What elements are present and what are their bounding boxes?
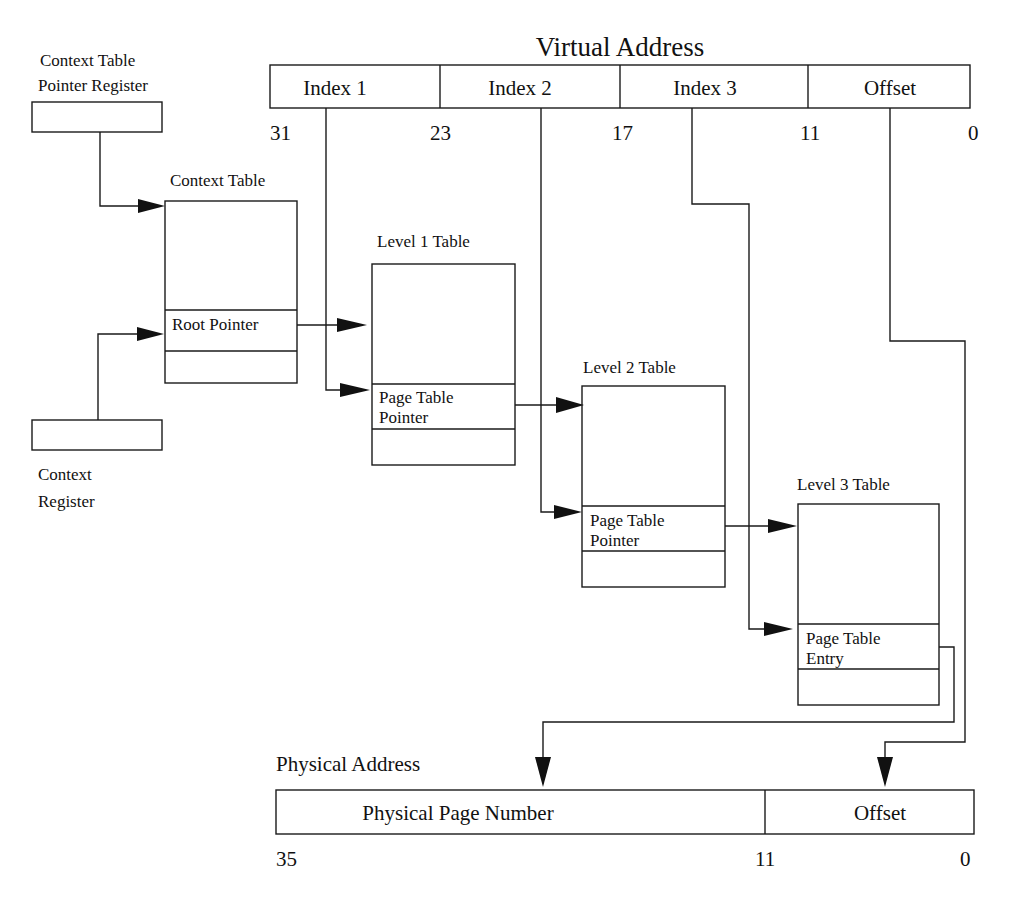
- root-pointer-entry: Root Pointer: [172, 315, 259, 334]
- pa-field-offset: Offset: [854, 801, 906, 825]
- va-bit-0: 0: [968, 121, 979, 145]
- connector-index1-to-level1-entry: [326, 108, 370, 397]
- page-table-diagram: Virtual Address Index 1 Index 2 Index 3 …: [0, 0, 1009, 902]
- connector-level2-to-level3: [725, 519, 797, 533]
- level1-entry-line2: Pointer: [379, 408, 428, 427]
- va-bit-23: 23: [430, 121, 451, 145]
- pa-bit-11: 11: [755, 847, 775, 871]
- connector-root-pointer-to-level1: [297, 318, 367, 332]
- pa-field-physical-page-number: Physical Page Number: [362, 801, 553, 825]
- level2-entry-line2: Pointer: [590, 531, 639, 550]
- level3-table-title: Level 3 Table: [797, 475, 890, 494]
- pa-bit-35: 35: [276, 847, 297, 871]
- level2-table: [582, 386, 725, 587]
- context-table: [165, 201, 297, 383]
- va-field-index-2: Index 2: [488, 76, 552, 100]
- level2-entry-line1: Page Table: [590, 511, 665, 530]
- level3-table: [798, 504, 939, 705]
- ctp-register-label-line1: Context Table: [40, 51, 135, 70]
- level1-table-title: Level 1 Table: [377, 232, 470, 251]
- connector-level1-to-level2: [515, 397, 584, 413]
- virtual-address-title: Virtual Address: [536, 32, 705, 62]
- context-register-label-line2: Register: [38, 492, 95, 511]
- va-field-index-1: Index 1: [303, 76, 367, 100]
- level3-entry-line2: Entry: [806, 649, 844, 668]
- pa-bit-0: 0: [960, 847, 971, 871]
- context-register-label-line1: Context: [38, 465, 92, 484]
- context-table-pointer-register: [32, 102, 162, 132]
- connector-ctp-to-context-table: [100, 132, 165, 213]
- context-table-title: Context Table: [170, 171, 265, 190]
- context-register: [32, 420, 162, 450]
- level1-table: [372, 264, 515, 465]
- ctp-register-label-line2: Pointer Register: [38, 76, 148, 95]
- va-bit-17: 17: [612, 121, 633, 145]
- level2-table-title: Level 2 Table: [583, 358, 676, 377]
- va-field-offset: Offset: [864, 76, 916, 100]
- level1-entry-line1: Page Table: [379, 388, 454, 407]
- va-bit-31: 31: [270, 121, 291, 145]
- va-field-index-3: Index 3: [673, 76, 737, 100]
- va-bit-11: 11: [800, 121, 820, 145]
- connector-index2-to-level2-entry: [541, 108, 582, 519]
- level3-entry-line1: Page Table: [806, 629, 881, 648]
- connector-context-register-to-root-pointer: [98, 327, 164, 420]
- physical-address-title: Physical Address: [276, 752, 420, 776]
